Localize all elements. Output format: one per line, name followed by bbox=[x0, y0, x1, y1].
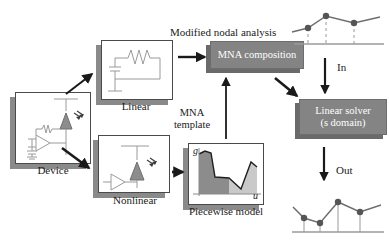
device-box bbox=[15, 92, 91, 164]
linear-caption: Linear bbox=[96, 100, 176, 112]
piecewise-box: g u bbox=[188, 143, 264, 205]
mna-template-label-line1: MNA bbox=[168, 107, 216, 118]
nonlinear-caption: Nonlinear bbox=[94, 194, 176, 206]
linear-box bbox=[101, 40, 173, 100]
device-caption: Device bbox=[8, 164, 98, 176]
linear-circuit-icon bbox=[102, 41, 174, 101]
linear-solver-label-line1: Linear solver bbox=[315, 105, 371, 117]
piecewise-caption: Piecewise model bbox=[172, 205, 280, 217]
out-label: Out bbox=[336, 164, 366, 176]
output-waveform-chart bbox=[288, 190, 388, 242]
input-waveform-chart bbox=[288, 2, 388, 50]
arrow-mna-to-solver bbox=[275, 78, 297, 96]
arrow-device-to-linear bbox=[66, 74, 92, 94]
in-label: In bbox=[337, 61, 367, 73]
diagram-canvas: Device Linear bbox=[0, 0, 389, 251]
input-waveform-plot bbox=[288, 2, 388, 50]
mna-template-label-line2: template bbox=[160, 119, 224, 130]
device-circuit-icon bbox=[16, 93, 92, 165]
piecewise-y-axis-label: g bbox=[193, 145, 198, 156]
linear-solver-box[interactable]: Linear solver (s domain) bbox=[299, 99, 387, 135]
nonlinear-circuit-icon bbox=[99, 136, 171, 194]
output-waveform-plot bbox=[288, 190, 388, 242]
linear-solver-label-line2: (s domain) bbox=[320, 117, 365, 129]
nonlinear-box bbox=[98, 135, 170, 193]
piecewise-x-axis-label: u bbox=[253, 190, 258, 201]
mna-composition-label: MNA composition bbox=[218, 49, 296, 61]
